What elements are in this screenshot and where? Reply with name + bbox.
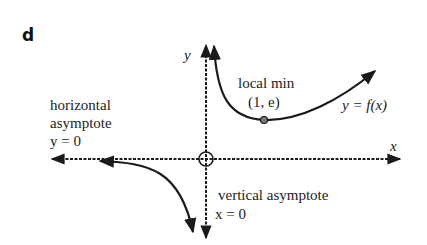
function-label: y = f(x) <box>340 97 387 114</box>
y-axis-label: y <box>182 47 191 63</box>
curve-lower-branch <box>100 161 193 232</box>
horizontal-asymptote-label-2: asymptote <box>50 115 112 131</box>
function-graph: y x local min (1, e) y = f(x) horizontal… <box>0 0 427 245</box>
local-min-point-label: (1, e) <box>248 94 280 111</box>
local-min-label: local min <box>238 75 295 91</box>
vertical-asymptote-label: vertical asymptote <box>218 187 329 203</box>
x-axis-label: x <box>389 138 397 154</box>
horizontal-asymptote-equation: y = 0 <box>50 133 81 149</box>
vertical-asymptote-equation: x = 0 <box>215 206 246 222</box>
horizontal-asymptote-label: horizontal <box>50 97 111 113</box>
local-min-point <box>261 117 268 124</box>
